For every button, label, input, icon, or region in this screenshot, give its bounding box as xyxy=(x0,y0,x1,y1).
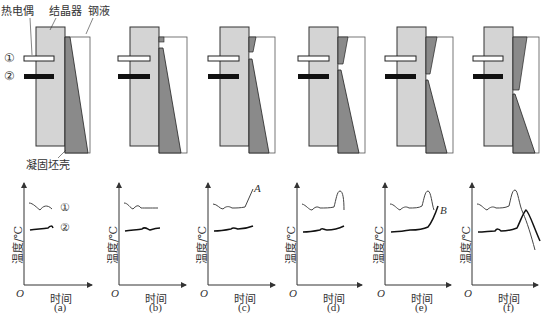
diagram-d xyxy=(298,27,365,153)
diagram-b xyxy=(118,27,187,153)
graph-a-marker-1: ① xyxy=(60,202,70,214)
origin-f: O xyxy=(464,287,472,299)
ylabel-a: 温度/℃ xyxy=(9,226,25,264)
panel-label-f: (f) xyxy=(503,301,514,313)
origin-b: O xyxy=(111,287,119,299)
graph-c xyxy=(208,183,275,285)
annotation-a: A xyxy=(254,182,261,194)
diagram-a xyxy=(24,18,96,285)
marker-1: ① xyxy=(4,52,15,64)
origin-e: O xyxy=(377,287,385,299)
ylabel-e: 温度/℃ xyxy=(370,226,386,264)
diagram-c xyxy=(208,27,275,153)
origin-a: O xyxy=(16,287,24,299)
solidified-shell-label: 凝固坯壳 xyxy=(26,160,70,172)
ylabel-c: 温度/℃ xyxy=(193,226,209,264)
diagram-f xyxy=(473,27,539,153)
graph-b xyxy=(119,183,186,285)
panel-label-c: (c) xyxy=(238,301,250,313)
figure-canvas xyxy=(0,0,547,324)
panel-label-b: (b) xyxy=(149,301,162,313)
thermocouple-label: 热电偶 xyxy=(1,6,34,18)
marker-2: ② xyxy=(4,70,15,82)
diagram-e xyxy=(385,27,453,153)
ylabel-f: 温度/℃ xyxy=(457,226,473,264)
panel-label-e: (e) xyxy=(415,301,427,313)
origin-c: O xyxy=(200,287,208,299)
origin-d: O xyxy=(289,287,297,299)
graph-d xyxy=(297,183,362,285)
molten-steel-label: 钢液 xyxy=(88,6,110,18)
graph-a xyxy=(24,183,92,285)
mould-label: 结晶器 xyxy=(49,6,82,18)
panel-label-d: (d) xyxy=(327,301,340,313)
graph-a-marker-2: ② xyxy=(60,222,70,234)
annotation-b: B xyxy=(440,204,447,216)
panel-label-a: (a) xyxy=(54,301,66,313)
graph-f xyxy=(472,183,540,285)
ylabel-b: 温度/℃ xyxy=(104,226,120,264)
graph-e xyxy=(385,183,451,285)
ylabel-d: 温度/℃ xyxy=(282,226,298,264)
